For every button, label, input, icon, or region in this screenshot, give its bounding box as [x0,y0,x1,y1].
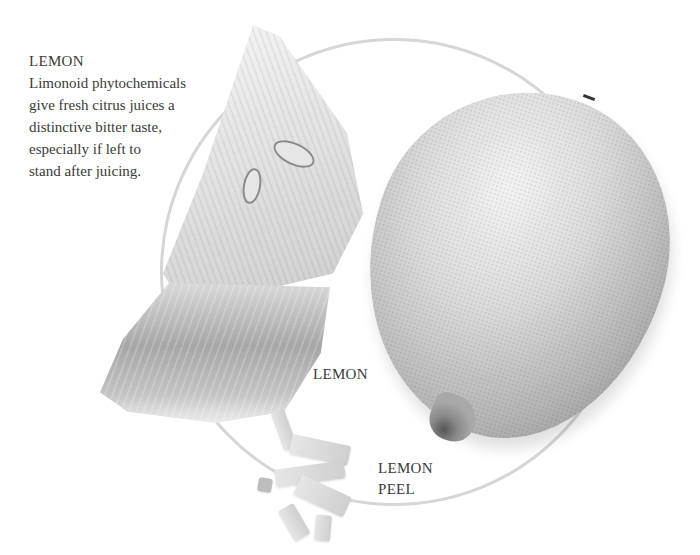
lemon-stem [583,94,595,101]
lemon-label: LEMON [313,364,368,385]
intro-text-block: LEMON Limonoid phytochemicals give fresh… [29,50,269,182]
intro-body: Limonoid phytochemicals give fresh citru… [29,72,269,182]
intro-line: give fresh citrus juices a [29,94,269,116]
lemon-peel-label: LEMON PEEL [378,458,433,500]
lemon-peel-image [255,400,375,550]
intro-line: Limonoid phytochemicals [29,72,269,94]
lemon-peel-label-line2: PEEL [378,479,433,500]
lemon-peel-label-line1: LEMON [378,458,433,479]
intro-line: stand after juicing. [29,160,269,182]
intro-line: especially if left to [29,138,269,160]
intro-line: distinctive bitter taste, [29,116,269,138]
intro-title: LEMON [29,50,269,72]
